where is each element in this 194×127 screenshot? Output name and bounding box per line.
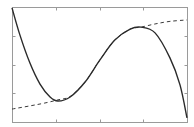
line-chart [0, 0, 194, 127]
solid-curve [12, 8, 187, 118]
dashed-curve [12, 20, 187, 109]
axis-ticks [13, 8, 188, 123]
plot-frame [13, 8, 188, 123]
